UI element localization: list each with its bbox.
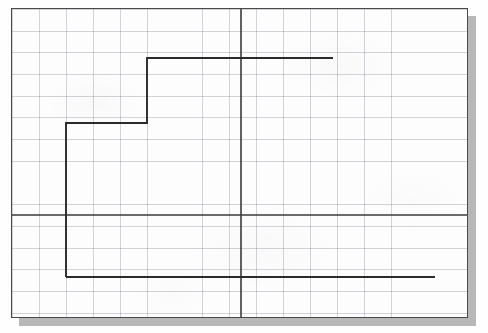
screenshot-canvas: [0, 0, 488, 333]
plot-area: [12, 9, 467, 317]
step-function: [66, 58, 333, 277]
graph-paper-sheet: [11, 8, 468, 318]
